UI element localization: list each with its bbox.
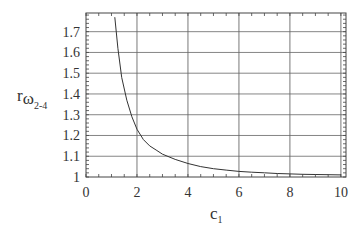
plot-frame [86,13,346,177]
data-curve [115,17,341,175]
x-tick-label: 10 [334,185,348,200]
y-tick-label: 1.3 [63,108,81,123]
y-tick-label: 1.1 [63,149,81,164]
y-tick-label: 1.7 [63,25,81,40]
x-tick-label: 2 [133,185,140,200]
x-tick-labels: 0246810 [83,185,348,200]
y-tick-labels: 11.11.21.31.41.51.61.7 [63,25,81,185]
y-tick-label: 1.4 [63,87,81,102]
x-tick-label: 4 [184,185,191,200]
y-tick-label: 1.6 [63,45,81,60]
y-axis-label: rω2-4 [17,86,47,111]
x-tick-label: 8 [286,185,293,200]
line-chart: 0246810 11.11.21.31.41.51.61.7 rω2-4 c1 [0,0,360,233]
y-tick-label: 1.2 [63,128,81,143]
x-axis-label: c1 [210,204,223,225]
grid-lines [86,13,346,177]
x-tick-label: 6 [235,185,242,200]
y-tick-label: 1.5 [63,66,81,81]
y-tick-label: 1 [73,170,80,185]
x-tick-label: 0 [83,185,90,200]
tick-marks [86,13,346,177]
